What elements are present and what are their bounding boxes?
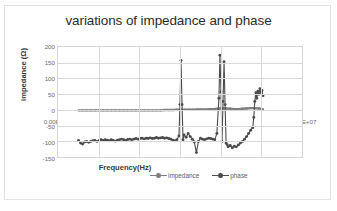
gridline-vertical	[139, 47, 140, 157]
data-point	[191, 138, 194, 141]
legend-label: phase	[230, 172, 247, 179]
data-point	[187, 132, 190, 135]
chart-title: variations of impedance and phase	[0, 13, 337, 28]
gridline-vertical	[261, 47, 262, 157]
gridline-vertical	[221, 47, 222, 157]
data-point	[247, 132, 250, 135]
y-tick-label: 150	[17, 58, 55, 65]
data-point	[243, 138, 246, 141]
y-tick-label: 0	[17, 106, 55, 113]
data-point	[249, 129, 252, 132]
data-point	[195, 151, 198, 154]
legend-entry-impedance[interactable]: impedance	[150, 172, 199, 179]
data-point	[253, 100, 256, 103]
gridline-vertical	[180, 47, 181, 157]
data-point	[222, 100, 225, 103]
data-point	[215, 132, 218, 135]
data-point	[229, 144, 232, 147]
legend-entry-phase[interactable]: phase	[212, 172, 247, 179]
x-axis-title: Frequency(Hz)	[70, 163, 180, 172]
y-axis-tick-labels: 200 150 100 50 0 -50 -100 -150	[14, 46, 55, 158]
chart-legend: impedance phase	[150, 172, 248, 179]
data-point	[183, 134, 186, 137]
chart-screenshot: variations of impedance and phase impeda…	[0, 0, 337, 211]
legend-marker-icon	[150, 173, 167, 179]
data-point	[224, 103, 227, 106]
data-point	[256, 90, 259, 93]
data-point	[255, 97, 258, 100]
gridline-vertical	[99, 47, 100, 157]
data-point	[181, 103, 184, 106]
y-tick-label: 50	[17, 90, 55, 97]
data-point	[245, 135, 248, 138]
data-point	[251, 126, 254, 129]
legend-marker-icon	[212, 173, 229, 179]
y-tick-label: -150	[17, 155, 55, 162]
y-tick-label: 200	[17, 43, 55, 50]
y-tick-label: 100	[17, 74, 55, 81]
data-point	[252, 116, 255, 119]
series-phase	[77, 54, 264, 154]
legend-label: impedance	[168, 172, 199, 179]
plot-area	[57, 46, 303, 158]
data-point	[189, 135, 192, 138]
data-point	[185, 136, 188, 139]
y-tick-label: -100	[17, 138, 55, 145]
